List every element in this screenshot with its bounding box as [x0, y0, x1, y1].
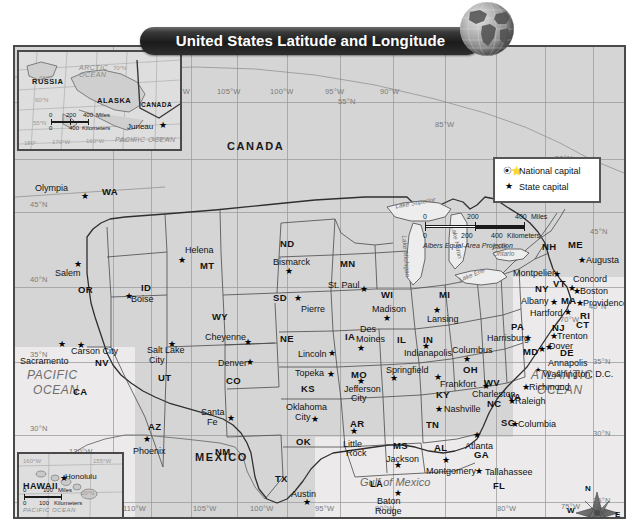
state-ia: IA: [345, 332, 355, 342]
state-de: DE: [560, 348, 574, 358]
scale-bar: 0 200 400 Miles 0 200 400 Kilometers Alb…: [423, 213, 573, 253]
alaska-lon-170w: 170°W: [52, 139, 70, 145]
state-mn: MN: [340, 259, 355, 269]
city-phoenix: Phoenix: [133, 447, 166, 456]
legend-label-state: State capital: [519, 182, 569, 192]
city-carsoncity: Carson City: [71, 347, 118, 356]
hawaii-scale-km-end: 100: [39, 500, 49, 506]
hawaii-scale-line: [24, 496, 62, 498]
city-columbus: Columbus: [452, 346, 493, 355]
alaska-scale-km-unit: Kilometers: [82, 125, 110, 131]
title-banner: United States Latitude and Longitude: [140, 27, 481, 55]
city-stpaul: St. Paul: [328, 281, 360, 290]
alaska-lon-150w: 150°W: [119, 137, 137, 143]
hawaii-scale-km-zero: 0: [23, 500, 26, 506]
state-az: AZ: [148, 422, 161, 432]
hawaii-lon-155w: 155°W: [93, 458, 111, 464]
legend-label-national: National capital: [519, 166, 581, 176]
alaska-scale-km-zero: 0: [49, 125, 52, 131]
city-littlerock-line2: Rock: [346, 449, 367, 458]
state-co: CO: [226, 376, 241, 386]
state-vt: VT: [553, 279, 566, 289]
city-nashville: Nashville: [444, 405, 481, 414]
scale-tick-0: [425, 222, 426, 231]
globe-icon: [460, 2, 514, 56]
alaska-scale-miles-end: 400: [83, 112, 93, 118]
alaska-lat-65n: 65°N: [39, 75, 52, 81]
pacific-ocean-label-line1: PACIFIC: [27, 369, 78, 382]
alaska-scale-bar: 0 200 400 Miles 0 400 Kilometers: [49, 112, 129, 134]
city-boston: Boston: [580, 287, 608, 296]
map-page: 110°W 105°W 100°W 95°W 90°W 85°W 55°N 50…: [0, 0, 635, 529]
arctic-ocean-label: ARCTIC OCEAN: [79, 64, 113, 78]
scale-km-zero: 0: [423, 232, 427, 239]
state-wi: WI: [381, 290, 393, 300]
city-santafe-line1: Santa: [201, 408, 225, 417]
national-capital-icon-glyph: ☉: [503, 165, 512, 176]
state-nd: ND: [280, 239, 294, 249]
state-nv: NV: [95, 358, 109, 368]
state-ms: MS: [393, 441, 408, 451]
alaska-inset: ALASKA RUSSIA CANADA Juneau ARCTIC OCEAN…: [17, 50, 182, 151]
state-nc: NC: [487, 399, 501, 409]
state-il: IL: [397, 335, 406, 345]
alaska-lon-160w: 160°W: [86, 138, 104, 144]
state-ma: MA: [561, 296, 576, 306]
city-lincoln: Lincoln: [298, 350, 327, 359]
scale-km-end: 400: [491, 232, 503, 239]
city-columbia: Columbia: [518, 420, 556, 429]
city-salem: Salem: [55, 269, 81, 278]
city-boise: Boise: [131, 295, 154, 304]
state-wa: WA: [102, 187, 118, 197]
alaska-lat-60n: 60°N: [35, 97, 48, 103]
state-ks: KS: [301, 384, 315, 394]
city-okc-line2: City: [295, 413, 311, 422]
state-ga: GA: [474, 450, 489, 460]
alaska-region-label: ALASKA: [97, 96, 131, 105]
state-al: AL: [434, 443, 447, 453]
hawaii-scale-miles-unit: Miles: [58, 487, 72, 493]
state-id: ID: [141, 283, 151, 293]
alaska-scale-miles-unit: Miles: [96, 112, 110, 118]
scale-km-mid: 200: [461, 232, 473, 239]
city-montpelier: Montpelier: [513, 269, 555, 278]
pacific-ocean-label-line2: OCEAN: [33, 384, 79, 397]
city-albany: Albany: [521, 297, 549, 306]
state-oh: OH: [463, 365, 478, 375]
scale-miles-zero: 0: [423, 213, 427, 220]
city-hartford: Hartford: [530, 309, 563, 318]
city-montgomery: Montgomery: [426, 467, 476, 476]
city-santafe-line2: Fe: [207, 418, 218, 427]
hawaii-scale-miles-end: 100: [43, 487, 53, 493]
city-saltlake-line2: City: [149, 356, 165, 365]
state-sd: SD: [273, 293, 287, 303]
state-tn: TN: [426, 420, 439, 430]
city-jackson: Jackson: [386, 455, 419, 464]
compass-west-label: W: [567, 506, 575, 515]
scale-miles-unit: Miles: [531, 213, 547, 220]
state-ok: OK: [296, 437, 311, 447]
scale-miles-mid: 200: [467, 213, 479, 220]
city-atlanta: Atlanta: [465, 442, 493, 451]
state-ca: CA: [73, 387, 87, 397]
scale-tick-end: [524, 222, 525, 231]
state-va: VA: [508, 392, 521, 402]
state-mi: MI: [439, 290, 450, 300]
state-fl: FL: [493, 481, 505, 491]
state-ny: NY: [535, 284, 549, 294]
projection-label: Albers Equal-Area Projection: [423, 242, 513, 249]
compass-east-label: E: [615, 510, 620, 519]
state-md: MD: [523, 347, 538, 357]
hawaii-inset: HAWAII Honolulu 160°W 155°W 20°N PACIFIC…: [17, 452, 124, 519]
city-augusta: Augusta: [586, 256, 619, 265]
state-tx: TX: [275, 474, 288, 484]
alaska-lon-180: 180°: [24, 140, 36, 146]
state-ky: KY: [436, 390, 450, 400]
state-pa: PA: [511, 322, 524, 332]
city-batonrouge-line1: Baton: [377, 497, 401, 506]
hawaii-scale-bar: 0 100 Miles 0 100 Kilometers: [23, 487, 93, 509]
state-or: OR: [78, 285, 93, 295]
city-cheyenne: Cheyenne: [205, 333, 246, 342]
state-la: LA: [370, 479, 383, 489]
city-olympia: Olympia: [35, 184, 68, 193]
